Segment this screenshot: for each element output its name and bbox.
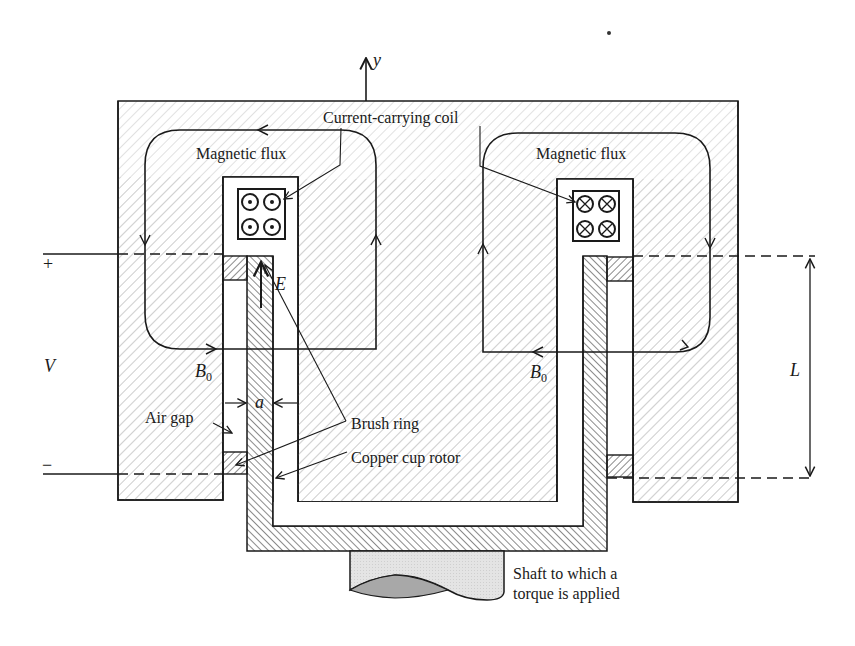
voltage-label: V [44,356,57,376]
brush-ring-top-left [223,256,247,280]
shaft [350,551,504,600]
brush-ring-bottom-left [223,452,247,474]
homopolar-machine-diagram: y Current-carrying coil Magnetic flux Ma… [0,0,855,646]
length-label: L [789,360,800,380]
rotor-label: Copper cup rotor [351,449,461,467]
coil-left [238,189,285,239]
gap-a-label: a [255,392,264,412]
flux-label-left: Magnetic flux [196,145,286,163]
efield-label: E [274,274,286,294]
stray-mark [607,31,611,35]
air-gap-label: Air gap [145,409,193,427]
shaft-label-line1: Shaft to which a [513,565,617,582]
brush-ring-top-right [607,257,633,281]
coil-right [573,191,619,241]
coil-label: Current-carrying coil [323,109,459,127]
minus-terminal: − [42,455,52,475]
shaft-label-line2: torque is applied [513,585,620,603]
y-axis-label: y [371,50,381,70]
plus-terminal: + [43,254,53,274]
brush-ring-label: Brush ring [351,415,419,433]
flux-label-right: Magnetic flux [536,145,626,163]
brush-ring-bottom-right [607,455,633,477]
